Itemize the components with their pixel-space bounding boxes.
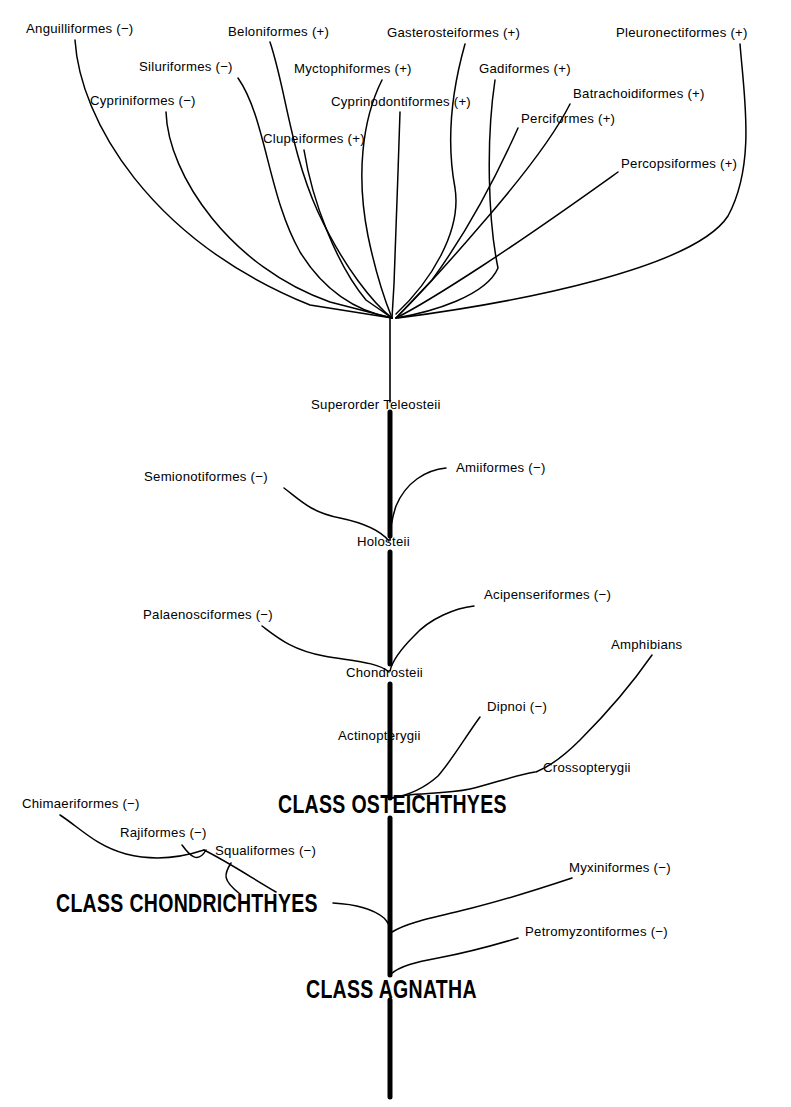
phylogenetic-tree-figure: Anguilliformes (−) Siluriformes (−) Cypr… (0, 0, 791, 1107)
label-dipnoi: Dipnoi (−) (487, 700, 547, 713)
label-beloniformes: Beloniformes (+) (228, 25, 329, 38)
label-class-osteichthyes: CLASS OSTEICHTHYES (278, 792, 507, 817)
label-acipenseriformes: Acipenseriformes (−) (484, 588, 611, 601)
label-perciformes: Perciformes (+) (521, 112, 615, 125)
branch-anguilliformes (75, 40, 392, 318)
branch-acipenseriformes (390, 606, 474, 671)
label-rajiformes: Rajiformes (−) (120, 826, 207, 839)
label-cyprinodontiformes: Cyprinodontiformes (+) (331, 95, 471, 108)
label-class-chondrichthyes: CLASS CHONDRICHTHYES (56, 891, 318, 916)
branch-amphibians (536, 655, 652, 772)
branch-amiiformes (390, 468, 446, 540)
label-actinopterygii: Actinopterygii (338, 729, 421, 742)
label-percopsiformes: Percopsiformes (+) (621, 157, 737, 170)
branch-perciformes (396, 128, 518, 318)
label-anguilliformes: Anguilliformes (−) (26, 22, 133, 35)
label-myxiniformes: Myxiniformes (−) (569, 861, 671, 874)
label-palaenosciformes: Palaenosciformes (−) (143, 608, 273, 621)
label-chimaeriformes: Chimaeriformes (−) (22, 797, 140, 810)
branch-gasterosteiformes (396, 44, 465, 314)
label-semionotiformes: Semionotiformes (−) (144, 470, 268, 483)
branch-clupeiformes (304, 150, 392, 318)
label-batrachoidiformes: Batrachoidiformes (+) (573, 87, 705, 100)
label-class-agnatha: CLASS AGNATHA (306, 977, 477, 1002)
label-amiiformes: Amiiformes (−) (456, 461, 546, 474)
branch-beloniformes (270, 42, 392, 318)
label-cypriniformes: Cypriniformes (−) (90, 94, 196, 107)
label-gadiformes: Gadiformes (+) (479, 62, 571, 75)
label-myctophiformes: Myctophiformes (+) (294, 62, 412, 75)
label-petromyzontiformes: Petromyzontiformes (−) (525, 925, 668, 938)
label-crossopterygii: Crossopterygii (543, 761, 631, 774)
branch-petromyzontiformes (391, 938, 518, 974)
branch-chondrichthyes-to-trunk (333, 903, 390, 931)
label-squaliformes: Squaliformes (−) (215, 844, 316, 857)
label-chondrosteii: Chondrosteii (346, 666, 423, 679)
label-clupeiformes: Clupeiformes (+) (263, 132, 365, 145)
label-holosteii: Holosteii (357, 535, 410, 548)
label-gasterosteiformes: Gasterosteiformes (+) (387, 26, 520, 39)
label-siluriformes: Siluriformes (−) (139, 60, 233, 73)
branch-cyprinodontiformes (392, 112, 400, 318)
label-pleuronectiformes: Pleuronectiformes (+) (616, 26, 748, 39)
label-superorder-teleosteii: Superorder Teleosteii (311, 398, 441, 411)
label-amphibians: Amphibians (611, 638, 682, 651)
branch-myctophiformes (362, 80, 392, 318)
